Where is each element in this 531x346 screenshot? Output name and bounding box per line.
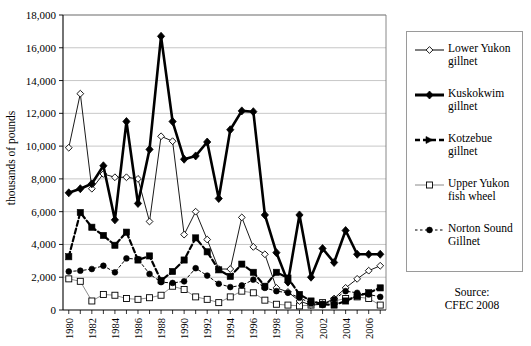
marker-filled-square: [181, 257, 187, 263]
marker-filled-square: [273, 269, 279, 275]
marker-filled-circle: [193, 265, 199, 271]
marker-filled-diamond: [77, 185, 84, 193]
marker-filled-square: [366, 290, 372, 296]
marker-open-square: [216, 300, 222, 306]
marker-open-square: [204, 296, 210, 302]
marker-filled-diamond: [377, 250, 384, 258]
marker-filled-square: [89, 224, 95, 230]
marker-filled-square: [146, 253, 152, 259]
legend-label-line-1: Kotzebue: [448, 132, 492, 145]
legend-item-upper_yukon_fish_wheel[interactable]: Upper Yukonfish wheel: [412, 177, 520, 217]
marker-open-square: [239, 288, 245, 294]
x-tick-label: 1998: [271, 318, 282, 339]
marker-open-square: [112, 292, 118, 298]
y-tick-label: 14,000: [26, 75, 57, 87]
legend-label-line-1: Upper Yukon: [448, 177, 509, 190]
marker-filled-square: [354, 293, 360, 299]
marker-filled-circle: [181, 278, 187, 284]
marker-open-diamond: [261, 251, 268, 258]
legend-label-line-2: Gillnet: [448, 235, 513, 248]
marker-filled-square: [308, 298, 314, 304]
marker-open-diamond: [204, 236, 211, 243]
y-tick-label: 12,000: [26, 107, 57, 119]
legend-label-line-1: Kuskokwim: [448, 87, 504, 100]
x-tick-label: 2000: [294, 318, 305, 339]
y-tick-label: 0: [51, 304, 57, 316]
y-tick-label: 10,000: [26, 140, 57, 152]
legend-label-kuskokwim_gillnet: Kuskokwimgillnet: [447, 87, 504, 112]
marker-filled-diamond: [111, 216, 118, 224]
marker-filled-diamond: [157, 32, 164, 40]
marker-filled-diamond: [296, 211, 303, 219]
marker-filled-circle: [250, 277, 256, 283]
marker-filled-square: [343, 298, 349, 304]
marker-filled-circle: [147, 271, 153, 277]
marker-open-square: [147, 295, 153, 301]
marker-filled-diamond: [134, 199, 141, 207]
source-line-2: CFEC 2008: [417, 299, 527, 312]
x-tick-label: 1980: [64, 318, 75, 339]
x-tick-label: 1996: [248, 318, 259, 339]
y-tick-label: 6,000: [31, 206, 56, 218]
marker-open-square: [181, 287, 187, 293]
marker-filled-circle: [274, 288, 280, 294]
marker-filled-square: [123, 229, 129, 235]
x-tick-label: 1992: [202, 318, 213, 339]
marker-filled-circle: [112, 269, 118, 275]
marker-filled-diamond: [273, 249, 280, 257]
marker-open-diamond: [169, 138, 176, 145]
marker-filled-circle: [216, 281, 222, 287]
marker-open-square: [227, 294, 233, 300]
legend-item-norton_sound_gillnet[interactable]: Norton SoundGillnet: [412, 222, 520, 262]
marker-open-diamond: [123, 174, 130, 181]
x-tick-label: 1994: [225, 317, 236, 339]
marker-filled-circle: [170, 280, 176, 286]
y-axis-label: thousands of pounds: [5, 111, 17, 206]
x-tick-label: 1990: [179, 318, 190, 339]
marker-open-square: [100, 291, 106, 297]
marker-open-diamond: [377, 262, 384, 269]
marker-filled-square: [158, 277, 164, 283]
marker-open-square: [427, 182, 433, 188]
marker-open-square: [123, 296, 129, 302]
y-tick-label: 8,000: [31, 173, 56, 185]
legend-item-kotzebue_gillnet[interactable]: Kotzebuegillnet: [412, 132, 520, 172]
marker-filled-diamond: [426, 91, 433, 99]
marker-filled-diamond: [146, 145, 153, 153]
marker-filled-square: [331, 302, 337, 308]
marker-filled-square: [100, 232, 106, 238]
marker-open-diamond: [158, 133, 165, 140]
marker-open-diamond: [192, 208, 199, 215]
marker-open-square: [262, 297, 268, 303]
marker-filled-circle: [204, 273, 210, 279]
marker-filled-square: [135, 257, 141, 263]
marker-filled-square: [296, 291, 302, 297]
legend-marker: [426, 137, 433, 144]
marker-filled-diamond: [261, 211, 268, 219]
marker-open-diamond: [77, 90, 84, 97]
source-line-1: Source:: [417, 286, 527, 299]
legend-label-lower_yukon_gillnet: Lower Yukongillnet: [447, 42, 511, 67]
marker-filled-square: [77, 209, 83, 215]
marker-filled-circle: [285, 290, 291, 296]
marker-open-square: [89, 298, 95, 304]
legend-item-lower_yukon_gillnet[interactable]: Lower Yukongillnet: [412, 42, 520, 82]
x-tick-label: 2002: [318, 318, 329, 339]
legend-label-line-2: gillnet: [448, 145, 492, 158]
legend-item-kuskokwim_gillnet[interactable]: Kuskokwimgillnet: [412, 87, 520, 127]
marker-filled-square: [112, 242, 118, 248]
marker-filled-circle: [343, 288, 349, 294]
legend-symbol-kotzebue_gillnet: [412, 133, 447, 147]
marker-filled-square: [250, 269, 256, 275]
marker-filled-square: [377, 285, 383, 291]
marker-open-diamond: [181, 231, 188, 238]
marker-open-diamond: [426, 47, 433, 54]
legend-label-kotzebue_gillnet: Kotzebuegillnet: [447, 132, 492, 157]
y-tick-label: 18,000: [26, 9, 57, 21]
marker-filled-circle: [77, 268, 83, 274]
marker-filled-diamond: [169, 118, 176, 126]
source-note: Source: CFEC 2008: [417, 286, 527, 312]
marker-filled-circle: [377, 294, 383, 300]
marker-open-square: [377, 302, 383, 308]
marker-open-diamond: [238, 214, 245, 221]
